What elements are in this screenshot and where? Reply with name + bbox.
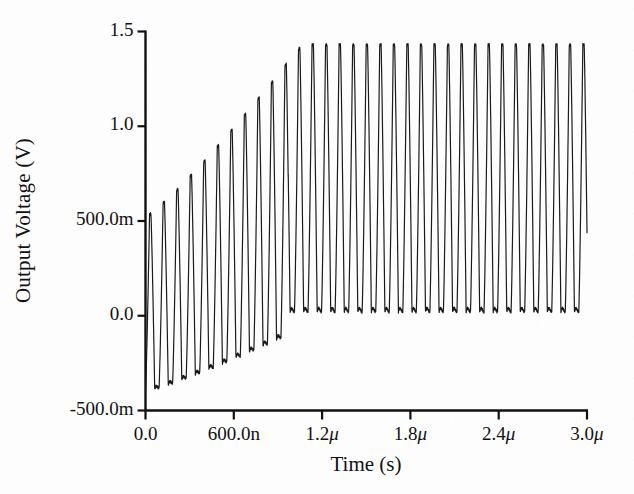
figure-container: Output Voltage (V) Time (s) 1.51.0500.0m… [0, 0, 634, 494]
waveform-line [146, 43, 588, 391]
x-axis-ticks [146, 411, 588, 420]
axes-group [138, 31, 589, 420]
plot-svg [0, 0, 634, 494]
